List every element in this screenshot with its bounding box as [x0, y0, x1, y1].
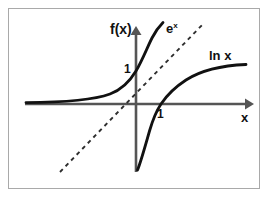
- y-axis-label: f(x): [110, 22, 132, 36]
- exponential-curve: [26, 23, 163, 103]
- figure-root: f(x) ex ln x 1 1 x: [0, 0, 273, 202]
- exponential-curve-label: ex: [166, 22, 178, 35]
- x-axis-arrow-icon: [245, 99, 254, 110]
- y-axis-arrow-icon: [131, 26, 142, 35]
- y-intercept-tick-label: 1: [124, 63, 131, 75]
- x-intercept-tick-label: 1: [157, 108, 164, 120]
- exponential-curve-label-exponent: x: [173, 21, 177, 30]
- plot-canvas: [0, 0, 273, 202]
- logarithm-curve-label: ln x: [209, 49, 231, 62]
- logarithm-curve: [138, 65, 247, 171]
- x-axis-label: x: [241, 111, 248, 124]
- identity-line-y-equals-x: [60, 23, 204, 172]
